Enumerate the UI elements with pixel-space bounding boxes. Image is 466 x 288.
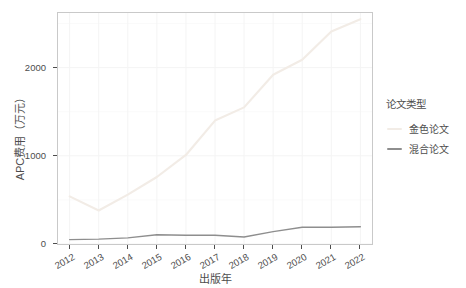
x-tick-mark <box>185 245 186 249</box>
x-tick-mark <box>272 245 273 249</box>
legend-swatch-line-icon <box>386 120 403 137</box>
grid-lines <box>58 13 372 244</box>
y-tick-mark <box>53 67 57 68</box>
x-tick-mark <box>127 245 128 249</box>
x-tick-mark <box>156 245 157 249</box>
x-tick-mark <box>359 245 360 249</box>
y-tick-label: 1000 <box>8 149 46 160</box>
y-tick-mark <box>53 155 57 156</box>
legend-label: 金色论文 <box>409 121 449 136</box>
x-tick-mark <box>330 245 331 249</box>
plot-panel <box>57 12 373 245</box>
x-tick-mark <box>301 245 302 249</box>
legend-title: 论文类型 <box>386 96 466 111</box>
x-tick-mark <box>214 245 215 249</box>
y-axis-title: APC费用（万元） <box>11 76 27 196</box>
x-tick-mark <box>98 245 99 249</box>
legend-swatch-line-icon <box>386 140 403 157</box>
legend-item-hybrid[interactable]: 混合论文 <box>386 140 466 157</box>
x-tick-mark <box>69 245 70 249</box>
legend-items: 金色论文混合论文 <box>386 120 466 157</box>
y-tick-mark <box>53 243 57 244</box>
x-axis-title: 出版年 <box>57 270 373 286</box>
y-tick-label: 0 <box>8 238 46 249</box>
legend-label: 混合论文 <box>409 141 449 156</box>
line-chart: APC费用（万元） 010002000 20122013201420152016… <box>0 0 466 288</box>
plot-area <box>58 13 372 244</box>
x-tick-mark <box>243 245 244 249</box>
legend: 论文类型 金色论文混合论文 <box>386 96 466 160</box>
y-tick-label: 2000 <box>8 61 46 72</box>
legend-item-gold[interactable]: 金色论文 <box>386 120 466 137</box>
